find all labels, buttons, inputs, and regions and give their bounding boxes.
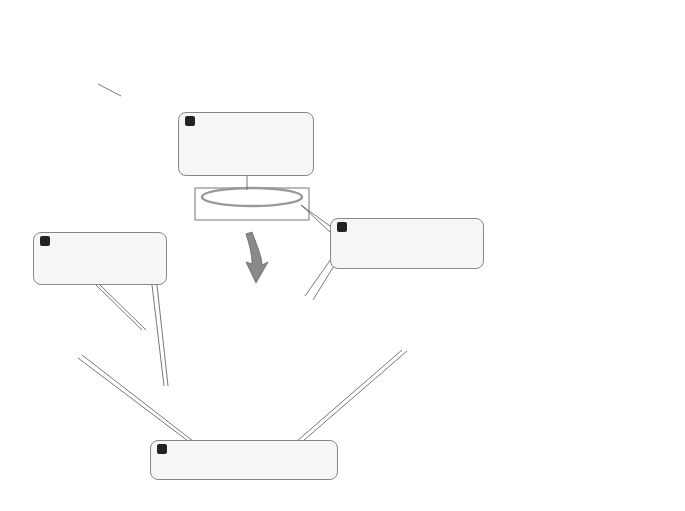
dna-replication-figure: [0, 0, 685, 511]
figure-title: [390, 28, 682, 42]
step-badge: [157, 444, 167, 454]
origin-box: [195, 188, 309, 220]
leader-callout-3-left: [78, 355, 193, 441]
callout-step-4: [33, 232, 167, 285]
leader-chromosome: [98, 84, 121, 96]
callout-step-3: [150, 440, 338, 480]
figure-caption: [390, 28, 682, 42]
step-badge: [337, 222, 347, 232]
leader-callout-4-right: [152, 285, 168, 386]
callout-step-2: [330, 218, 484, 269]
origin-region: [195, 188, 309, 220]
leader-callout-3-right: [297, 350, 407, 441]
leader-callout-4-left: [96, 285, 146, 330]
step-badge: [40, 236, 50, 246]
zoom-arrow-icon: [246, 232, 268, 283]
step-badge: [185, 116, 195, 126]
leader-callout-2-to-box: [301, 205, 330, 232]
replication-bubble: [202, 188, 302, 206]
callout-step-1: [178, 112, 314, 176]
